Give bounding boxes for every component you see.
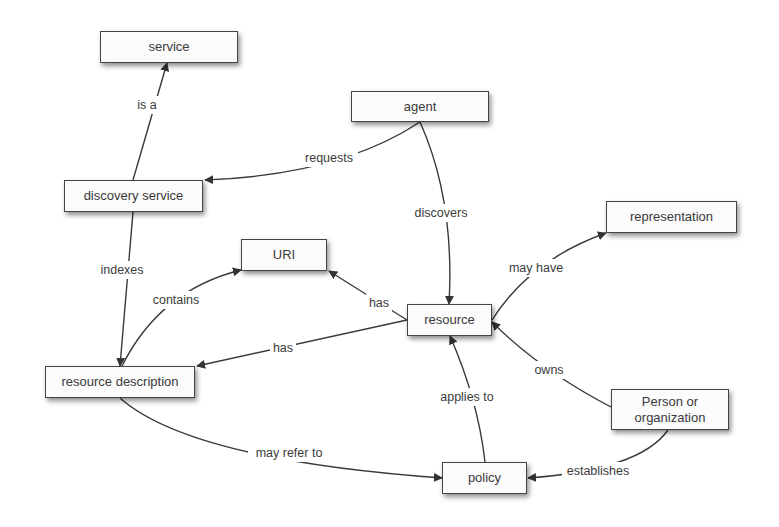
edge-label: discovers (410, 204, 472, 222)
edge-resource-to-resource-description (197, 320, 407, 366)
arrow-icon (120, 398, 442, 478)
edge-label-text: establishes (567, 464, 630, 478)
node-label: Person or organization (635, 394, 706, 426)
edge-label-text: may refer to (256, 446, 323, 460)
edge-labels-layer: is arequestsdiscoversindexescontainshash… (96, 96, 634, 480)
edge-discovery-service-to-resource-description (120, 212, 133, 366)
edge-label-text: owns (534, 363, 563, 377)
node-label: resource description (61, 374, 178, 390)
node-label: service (148, 39, 189, 55)
node-label: URI (273, 247, 295, 263)
node-policy[interactable]: policy (442, 462, 527, 494)
node-uri[interactable]: URI (241, 239, 327, 271)
node-agent[interactable]: agent (351, 91, 489, 122)
edge-label-text: indexes (100, 263, 143, 277)
edge-label: may refer to (248, 444, 330, 462)
edge-label: has (366, 294, 392, 312)
arrow-icon (122, 270, 241, 366)
edge-label: establishes (562, 462, 634, 480)
node-label: discovery service (84, 188, 184, 204)
node-label: agent (404, 99, 437, 115)
edge-label-text: is a (137, 98, 157, 112)
edges-layer (120, 63, 668, 478)
edge-label: has (270, 339, 296, 357)
arrow-icon (133, 63, 167, 180)
edge-label: applies to (434, 388, 500, 406)
edge-resource-description-to-uri (122, 270, 241, 366)
edge-label: is a (132, 96, 162, 114)
arrow-icon (197, 320, 407, 366)
diagram-canvas: is arequestsdiscoversindexescontainshash… (0, 0, 779, 527)
edge-label-text: contains (153, 293, 200, 307)
edge-label-text: has (369, 296, 389, 310)
node-label: representation (630, 209, 713, 225)
node-label: resource (424, 312, 475, 328)
edge-label-text: discovers (415, 206, 468, 220)
edge-label: owns (531, 361, 567, 379)
edge-label-text: has (273, 341, 293, 355)
edge-resource-description-to-policy (120, 398, 442, 478)
node-label: policy (468, 470, 501, 486)
node-person-or-organization[interactable]: Person or organization (611, 389, 729, 430)
node-resource[interactable]: resource (407, 304, 492, 336)
edge-label-text: applies to (440, 390, 494, 404)
node-discovery-service[interactable]: discovery service (64, 180, 203, 212)
edge-label-text: requests (305, 151, 353, 165)
edge-label: may have (505, 259, 567, 277)
node-service[interactable]: service (100, 31, 238, 63)
arrow-icon (120, 212, 133, 366)
edge-label: indexes (96, 261, 148, 279)
edge-label: requests (300, 149, 358, 167)
edge-label: contains (148, 291, 204, 309)
node-resource-description[interactable]: resource description (45, 366, 195, 398)
edge-discovery-service-to-service (133, 63, 167, 180)
node-representation[interactable]: representation (606, 201, 737, 233)
edge-label-text: may have (509, 261, 563, 275)
